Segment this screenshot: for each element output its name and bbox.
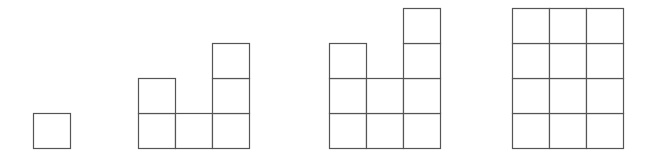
block-cell (34, 114, 71, 149)
block-cell (404, 114, 441, 149)
figure-1 (34, 114, 71, 149)
block-cell (550, 114, 587, 149)
block-cell (404, 79, 441, 114)
block-cell (404, 9, 441, 44)
block-cell (550, 79, 587, 114)
block-cell (550, 44, 587, 79)
block-cell (513, 79, 550, 114)
block-cell (367, 114, 404, 149)
block-cell (404, 44, 441, 79)
block-cell (213, 44, 250, 79)
figure-2 (139, 44, 250, 149)
block-cell (513, 44, 550, 79)
block-cell (513, 9, 550, 44)
block-cell (587, 114, 624, 149)
figure-3 (330, 9, 441, 149)
block-cell (367, 79, 404, 114)
block-cell (513, 114, 550, 149)
block-figures-canvas (0, 0, 652, 158)
figure-4 (513, 9, 624, 149)
block-cell (330, 114, 367, 149)
block-cell (330, 44, 367, 79)
block-cell (587, 9, 624, 44)
block-cell (587, 79, 624, 114)
block-cell (330, 79, 367, 114)
block-cell (550, 9, 587, 44)
block-cell (139, 114, 176, 149)
block-cell (139, 79, 176, 114)
block-cell (176, 114, 213, 149)
block-cell (213, 79, 250, 114)
block-cell (587, 44, 624, 79)
block-cell (213, 114, 250, 149)
